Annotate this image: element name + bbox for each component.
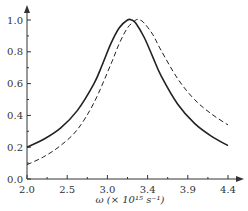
solid-curve [27,19,228,147]
dashed-curve [27,19,228,164]
x-tick-label: 2.5 [59,184,75,195]
y-axis-arrow-icon [24,5,30,13]
x-axis-label: ω (× 10¹⁵ s⁻¹) [95,194,164,205]
plot-lines [27,19,228,164]
x-tick-label: 2.0 [19,184,35,195]
x-axis-arrow-icon [236,176,244,182]
y-tick-label: 0.0 [7,174,23,185]
y-tick-label: 0.8 [7,46,23,57]
x-tick-label: 3.9 [180,184,196,195]
resonance-chart: 2.02.53.03.43.94.40.00.20.40.60.81.0 ω (… [0,0,248,211]
y-tick-label: 0.4 [7,110,23,121]
y-tick-label: 1.0 [7,15,23,26]
y-tick-label: 0.6 [7,78,23,89]
chart-canvas: 2.02.53.03.43.94.40.00.20.40.60.81.0 ω (… [0,0,248,211]
x-tick-label: 4.4 [220,184,236,195]
y-tick-label: 0.2 [7,142,23,153]
axes: 2.02.53.03.43.94.40.00.20.40.60.81.0 [7,5,244,195]
